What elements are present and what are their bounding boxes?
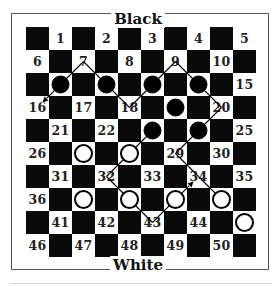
square-38 [118, 188, 141, 211]
square-1: 1 [49, 27, 72, 50]
dark-square [49, 188, 72, 211]
square-number: 16 [26, 96, 49, 119]
dark-square [26, 165, 49, 188]
dark-square [187, 50, 210, 73]
dark-square [95, 96, 118, 119]
dark-square [141, 50, 164, 73]
dark-square [49, 50, 72, 73]
square-5: 5 [233, 27, 256, 50]
square-number: 7 [72, 50, 95, 73]
square-number: 42 [95, 211, 118, 234]
square-number: 47 [72, 234, 95, 257]
square-26: 26 [26, 142, 49, 165]
square-31: 31 [49, 165, 72, 188]
square-14 [187, 73, 210, 96]
square-24 [187, 119, 210, 142]
square-number: 33 [141, 165, 164, 188]
square-number: 10 [210, 50, 233, 73]
dark-square [233, 50, 256, 73]
square-number: 32 [95, 165, 118, 188]
square-number: 41 [49, 211, 72, 234]
square-25: 25 [233, 119, 256, 142]
square-number: 43 [141, 211, 164, 234]
square-19 [164, 96, 187, 119]
square-number: 46 [26, 234, 49, 257]
dark-square [233, 188, 256, 211]
square-number: 3 [141, 27, 164, 50]
dark-square [233, 96, 256, 119]
square-27 [72, 142, 95, 165]
square-number: 36 [26, 188, 49, 211]
square-3: 3 [141, 27, 164, 50]
square-number: 35 [233, 165, 256, 188]
dark-square [164, 27, 187, 50]
dark-square [164, 119, 187, 142]
square-number: 5 [233, 27, 256, 50]
square-11 [49, 73, 72, 96]
square-13 [141, 73, 164, 96]
dark-square [72, 27, 95, 50]
black-side-label: Black [0, 12, 276, 27]
square-12 [95, 73, 118, 96]
dark-square [210, 27, 233, 50]
square-number: 34 [187, 165, 210, 188]
dark-square [187, 96, 210, 119]
white-label-text: White [110, 256, 166, 274]
square-4: 4 [187, 27, 210, 50]
square-2: 2 [95, 27, 118, 50]
square-20: 20 [210, 96, 233, 119]
square-number: 2 [95, 27, 118, 50]
dark-square [187, 142, 210, 165]
square-46: 46 [26, 234, 49, 257]
square-44: 44 [187, 211, 210, 234]
square-8: 8 [118, 50, 141, 73]
dark-square [164, 211, 187, 234]
dark-square [141, 234, 164, 257]
draughts-board: 1234567891015161718202122252629303132333… [26, 27, 256, 257]
dark-square [141, 188, 164, 211]
dark-square [141, 142, 164, 165]
dark-square [187, 188, 210, 211]
square-number: 25 [233, 119, 256, 142]
dark-square [49, 234, 72, 257]
square-35: 35 [233, 165, 256, 188]
dark-square [72, 119, 95, 142]
dark-square [118, 211, 141, 234]
square-number: 21 [49, 119, 72, 142]
square-number: 15 [233, 73, 256, 96]
dark-square [233, 234, 256, 257]
dark-square [26, 211, 49, 234]
square-number: 26 [26, 142, 49, 165]
square-number: 6 [26, 50, 49, 73]
dark-square [210, 119, 233, 142]
square-number: 20 [210, 96, 233, 119]
dark-square [95, 50, 118, 73]
square-45 [233, 211, 256, 234]
square-34: 34 [187, 165, 210, 188]
square-37 [72, 188, 95, 211]
square-16: 16 [26, 96, 49, 119]
dark-square [95, 234, 118, 257]
dark-square [187, 234, 210, 257]
square-7: 7 [72, 50, 95, 73]
square-47: 47 [72, 234, 95, 257]
dark-square [118, 165, 141, 188]
square-number: 22 [95, 119, 118, 142]
dark-square [26, 27, 49, 50]
square-number: 49 [164, 234, 187, 257]
dark-square [26, 119, 49, 142]
white-side-label: White [0, 258, 276, 273]
square-17: 17 [72, 96, 95, 119]
dark-square [72, 211, 95, 234]
square-21: 21 [49, 119, 72, 142]
square-number: 48 [118, 234, 141, 257]
square-18: 18 [118, 96, 141, 119]
square-number: 9 [164, 50, 187, 73]
square-number: 30 [210, 142, 233, 165]
dark-square [210, 73, 233, 96]
square-number: 4 [187, 27, 210, 50]
square-9: 9 [164, 50, 187, 73]
dark-square [118, 119, 141, 142]
square-number: 18 [118, 96, 141, 119]
square-30: 30 [210, 142, 233, 165]
